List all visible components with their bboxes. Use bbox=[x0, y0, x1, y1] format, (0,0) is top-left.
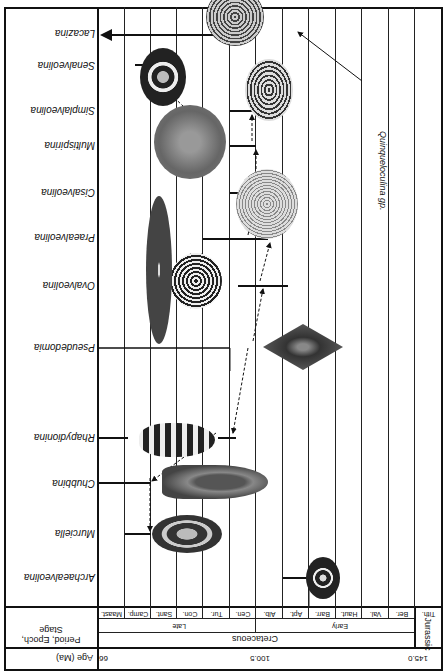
range-lines bbox=[0, 0, 448, 671]
fossil-multispirina-image bbox=[154, 105, 226, 179]
fossil-senalveolina-image bbox=[140, 48, 186, 106]
fossil-cisalveolina-image bbox=[236, 169, 298, 239]
fossil-murciella-image bbox=[152, 515, 222, 553]
fossil-archaealveolina-image bbox=[306, 557, 340, 599]
range-chart-figure: 145.0 100.5 66 Age (Ma) Jurassic Cretace… bbox=[0, 0, 448, 671]
fossil-chubbina-image bbox=[162, 465, 268, 499]
quinqueloculina-annotation: Quinqueloculina gp. bbox=[378, 131, 388, 211]
fossil-ovalveolina-image bbox=[170, 253, 222, 309]
fossil-praealveolina-image bbox=[146, 196, 172, 344]
fossil-simplalveolina-image bbox=[245, 59, 293, 121]
fossil-rhapydionina-image bbox=[139, 423, 215, 457]
